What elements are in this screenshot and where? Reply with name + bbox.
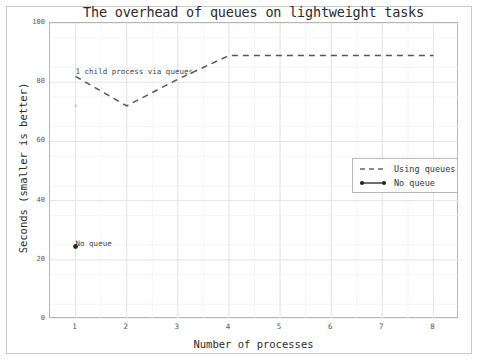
- x-axis-tick: 8: [417, 322, 447, 331]
- y-axis-tick: 60: [19, 136, 45, 144]
- legend-label: Using queues: [394, 164, 455, 174]
- x-axis-tick: 4: [213, 322, 243, 331]
- x-axis-tick: 7: [366, 322, 396, 331]
- x-axis-tick: 6: [315, 322, 345, 331]
- solid-line-marker-icon: [359, 178, 387, 188]
- x-axis-tick: 5: [264, 322, 294, 331]
- data-series-layer: [73, 56, 433, 249]
- x-axis-tick-labels: 12345678: [0, 322, 479, 334]
- y-axis-tick: 40: [19, 196, 45, 204]
- chart-figure: The overhead of queues on lightweight ta…: [0, 0, 479, 361]
- legend-item-no-queue: No queue: [353, 176, 457, 190]
- y-axis-tick: 20: [19, 255, 45, 263]
- chart-legend: Using queues No queue: [352, 158, 458, 193]
- y-axis-tick-labels: 020406080100: [14, 0, 45, 361]
- x-axis-label: Number of processes: [49, 338, 458, 350]
- x-axis-tick: 1: [60, 322, 90, 331]
- chart-title: The overhead of queues on lightweight ta…: [49, 4, 458, 22]
- legend-label: No queue: [394, 178, 435, 188]
- y-axis-tick: 100: [19, 18, 45, 26]
- plot-annotation: No queue: [76, 239, 112, 248]
- legend-item-using-queues: Using queues: [353, 162, 457, 176]
- stray-marker-layer: [74, 104, 77, 107]
- x-axis-tick: 3: [162, 322, 192, 331]
- dashed-line-icon: [359, 164, 387, 174]
- plot-annotation: 1 child process via queues: [76, 67, 193, 76]
- y-axis-tick: 80: [19, 77, 45, 85]
- y-axis-tick: 0: [19, 314, 45, 322]
- x-axis-tick: 2: [111, 322, 141, 331]
